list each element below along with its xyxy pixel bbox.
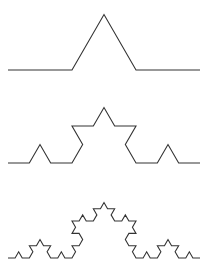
koch-figure [0, 0, 208, 277]
figure-background [0, 0, 208, 277]
koch-curve-canvas [0, 0, 208, 277]
